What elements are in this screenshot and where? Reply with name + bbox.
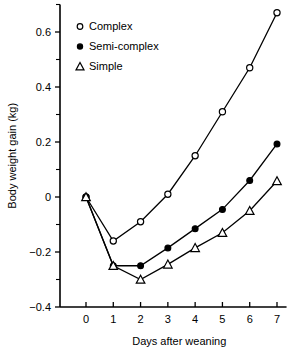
data-point-open-circle bbox=[77, 24, 83, 30]
y-tick-label: 0.6 bbox=[36, 26, 51, 38]
x-tick-label: 6 bbox=[247, 313, 253, 325]
legend-label: Semi-complex bbox=[89, 40, 159, 52]
data-point-open-circle bbox=[165, 191, 171, 197]
series-line bbox=[86, 144, 277, 266]
chart-figure: −0.4−0.200.20.40.6 01234567 Days after w… bbox=[0, 0, 297, 359]
data-point-open-circle bbox=[192, 153, 198, 159]
data-point-open-triangle bbox=[136, 275, 145, 283]
series-semi-complex bbox=[83, 141, 280, 269]
y-tick-label: 0.4 bbox=[36, 81, 51, 93]
x-tick-label: 7 bbox=[274, 313, 280, 325]
y-tick-label: 0.2 bbox=[36, 136, 51, 148]
x-axis-tick-labels: 01234567 bbox=[83, 313, 280, 325]
y-axis-title: Body weight gain (kg) bbox=[6, 103, 18, 209]
y-tick-label: −0.4 bbox=[29, 301, 51, 313]
data-point-open-circle bbox=[219, 109, 225, 115]
line-chart-canvas: −0.4−0.200.20.40.6 01234567 Days after w… bbox=[0, 0, 297, 359]
legend-entry-simple: Simple bbox=[76, 60, 123, 72]
data-point-open-circle bbox=[110, 238, 116, 244]
legend-label: Complex bbox=[89, 20, 133, 32]
x-tick-label: 2 bbox=[138, 313, 144, 325]
data-point-open-triangle bbox=[76, 63, 84, 70]
data-point-filled-circle bbox=[138, 263, 144, 269]
data-point-open-circle bbox=[137, 219, 143, 225]
data-point-filled-circle bbox=[220, 206, 226, 212]
data-point-open-triangle bbox=[273, 177, 282, 185]
data-point-open-circle bbox=[247, 65, 253, 71]
legend-entry-semi-complex: Semi-complex bbox=[77, 40, 159, 52]
data-point-filled-circle bbox=[192, 226, 198, 232]
x-tick-label: 3 bbox=[165, 313, 171, 325]
x-tick-label: 0 bbox=[83, 313, 89, 325]
data-point-open-circle bbox=[274, 10, 280, 16]
legend-label: Simple bbox=[89, 60, 123, 72]
chart-legend: ComplexSemi-complexSimple bbox=[76, 20, 159, 72]
data-point-filled-circle bbox=[165, 245, 171, 251]
data-point-open-triangle bbox=[191, 244, 200, 252]
data-point-filled-circle bbox=[247, 178, 253, 184]
y-tick-label: 0 bbox=[45, 191, 51, 203]
data-point-open-triangle bbox=[164, 260, 173, 268]
x-axis-title: Days after weaning bbox=[132, 335, 226, 347]
data-point-filled-circle bbox=[77, 44, 82, 49]
x-tick-label: 1 bbox=[110, 313, 116, 325]
series-simple bbox=[82, 177, 282, 283]
y-tick-label: −0.2 bbox=[29, 246, 51, 258]
y-axis-tick-labels: −0.4−0.200.20.40.6 bbox=[29, 26, 51, 313]
x-tick-label: 5 bbox=[219, 313, 225, 325]
x-tick-label: 4 bbox=[192, 313, 198, 325]
legend-entry-complex: Complex bbox=[77, 20, 133, 32]
data-point-filled-circle bbox=[274, 141, 280, 147]
